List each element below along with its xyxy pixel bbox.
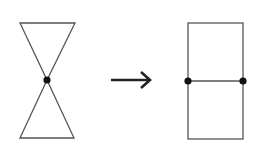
right-divider-vertex bbox=[239, 77, 246, 84]
upper-triangle bbox=[20, 23, 75, 80]
split-rectangle-figure bbox=[188, 23, 243, 139]
diagram-canvas bbox=[0, 0, 253, 150]
hourglass-center-vertex bbox=[43, 76, 50, 83]
left-divider-vertex bbox=[184, 77, 191, 84]
lower-triangle bbox=[20, 80, 74, 138]
transform-arrow-icon bbox=[111, 72, 150, 88]
